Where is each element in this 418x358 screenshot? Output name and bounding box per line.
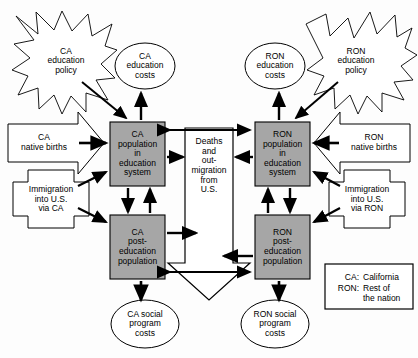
diagram-canvas: CA education policy RON education policy… <box>0 0 418 358</box>
ca-post-education-shape <box>110 215 165 279</box>
ca-immigration-shape <box>13 170 89 228</box>
ca-population-education-shape <box>110 122 165 186</box>
ron-population-education-shape <box>255 122 310 186</box>
arrow-ron-policy-to-ron-pop <box>296 82 338 118</box>
legend-key-ron: RON: <box>331 283 363 304</box>
legend-value-ron: Rest of the nation <box>363 283 400 304</box>
deaths-outmigration-shape <box>168 128 250 300</box>
legend-key-ca: CA: <box>331 272 363 283</box>
arrow-ca-immigration-to-ca-pop <box>78 172 106 186</box>
ron-education-costs-shape <box>245 43 305 89</box>
legend-value-ca: California <box>363 272 399 283</box>
ron-post-education-shape <box>255 215 310 279</box>
arrow-ron-immigration-to-ron-pop <box>314 172 340 186</box>
ron-social-program-costs-shape <box>241 300 309 348</box>
diagram-graphics <box>0 0 418 358</box>
ron-immigration-shape <box>329 170 405 228</box>
arrow-ca-policy-to-ca-pop <box>82 82 126 118</box>
legend-row-ron: RON: Rest of the nation <box>331 283 411 304</box>
ca-education-costs-shape <box>115 43 175 89</box>
ca-social-program-costs-shape <box>111 300 179 348</box>
legend-row-ca: CA: California <box>331 272 411 283</box>
ron-education-policy-shape <box>306 12 417 114</box>
legend-box: CA: California RON: Rest of the nation <box>331 272 411 304</box>
